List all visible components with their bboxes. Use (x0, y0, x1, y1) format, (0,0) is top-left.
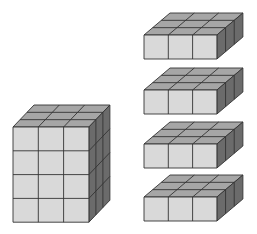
cube-slab-2 (144, 68, 243, 114)
front-face (144, 197, 217, 221)
cube-slab-3 (144, 122, 243, 168)
front-face (144, 90, 217, 114)
cube-diagram (0, 0, 257, 234)
front-face (144, 144, 217, 168)
cube-slab-4 (144, 175, 243, 221)
cube-slab-1 (144, 13, 243, 59)
large-cube-block (13, 105, 110, 222)
front-face (144, 35, 217, 59)
